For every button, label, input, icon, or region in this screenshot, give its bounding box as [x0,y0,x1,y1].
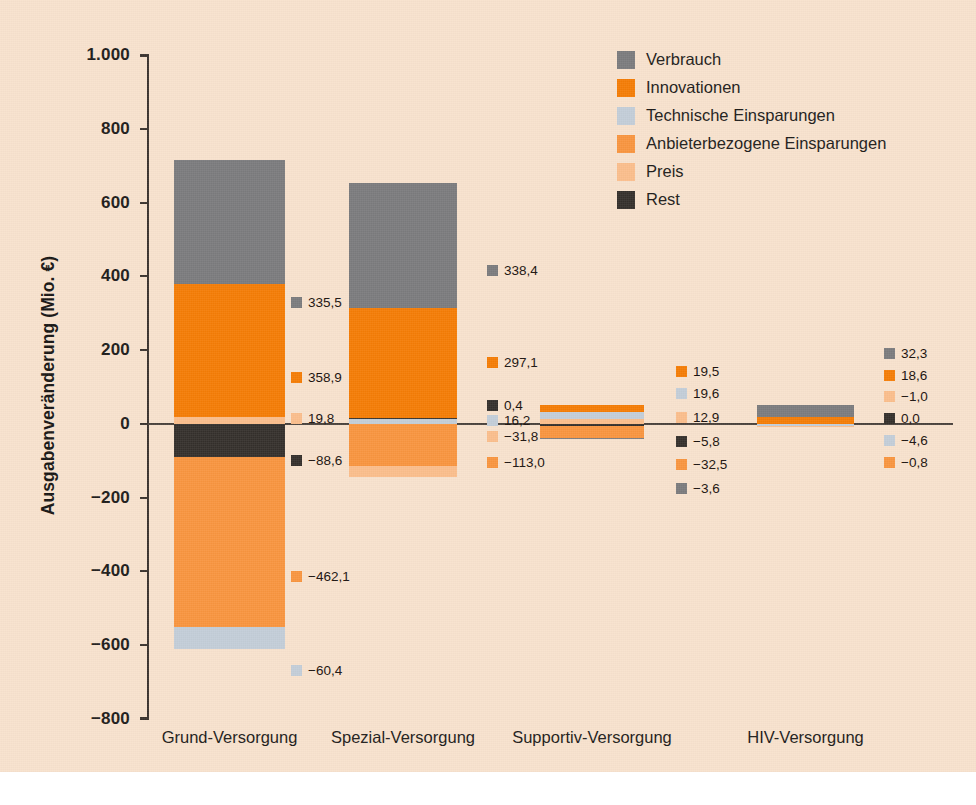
legend-item: Verbrauch [617,50,886,69]
y-tick-label: −800 [34,709,130,729]
value-label-swatch-icon [291,571,302,582]
y-tick-label: 600 [34,193,130,213]
bar-value-label: −1,0 [884,390,928,404]
y-tick-label: −400 [34,561,130,581]
bar-value-label: −5,8 [676,435,720,449]
legend-swatch-icon [617,191,635,209]
value-label-swatch-icon [884,370,895,381]
value-label-text: 0,0 [901,412,920,426]
bar-segment [349,466,457,478]
value-label-text: −4,6 [901,434,928,448]
value-label-text: −31,8 [504,430,538,444]
value-label-text: −5,8 [693,435,720,449]
bar-segment [174,457,285,627]
legend-item: Preis [617,162,886,181]
y-tick-mark [140,275,149,277]
bar-segment [349,308,457,418]
y-tick-mark [140,570,149,572]
value-label-swatch-icon [291,372,302,383]
bar-segment [174,627,285,649]
y-tick-mark [140,128,149,130]
bar-value-label: −0,8 [884,456,928,470]
value-label-swatch-icon [676,436,687,447]
bar-value-label: −462,1 [291,570,350,584]
bar-segment [757,405,854,417]
bar-value-label: 12,9 [676,411,719,425]
legend-item-label: Innovationen [646,78,741,97]
y-tick-label: −200 [34,488,130,508]
y-tick-mark [140,718,149,720]
bar-segment [757,417,854,424]
bar-value-label: 338,4 [487,264,538,278]
bar-value-label: −3,6 [676,482,720,496]
legend-swatch-icon [617,107,635,125]
value-label-swatch-icon [291,665,302,676]
bar-value-label: 358,9 [291,371,342,385]
bar-value-label: 297,1 [487,356,538,370]
legend-item-label: Anbieterbezogene Einsparungen [646,134,886,153]
bar-value-label: 335,5 [291,296,342,310]
page-bottom-strip [0,772,976,805]
value-label-text: 19,5 [693,365,719,379]
value-label-swatch-icon [487,431,498,442]
bar-segment [174,417,285,424]
value-label-swatch-icon [291,297,302,308]
bar-segment [174,424,285,457]
value-label-text: −1,0 [901,390,928,404]
value-label-text: 358,9 [308,371,342,385]
value-label-swatch-icon [487,415,498,426]
legend: VerbrauchInnovationenTechnische Einsparu… [617,50,886,209]
value-label-text: 19,6 [693,387,719,401]
bar-value-label: 16,2 [487,414,530,428]
bar-value-label: −88,6 [291,454,342,468]
y-tick-label: 0 [34,414,130,434]
bar-value-label: 32,3 [884,347,927,361]
value-label-swatch-icon [291,455,302,466]
y-tick-label: 800 [34,119,130,139]
y-axis-title: Ausgabenveränderung (Mio. €) [38,206,59,566]
bar-value-label: 0,0 [884,412,920,426]
value-label-text: −462,1 [308,570,350,584]
y-tick-mark [140,349,149,351]
value-label-swatch-icon [487,265,498,276]
bar-value-label: 19,6 [676,387,719,401]
value-label-swatch-icon [487,357,498,368]
bar-segment [540,426,644,438]
value-label-swatch-icon [676,412,687,423]
value-label-swatch-icon [676,366,687,377]
value-label-swatch-icon [676,459,687,470]
bar-value-label: 0,4 [487,399,523,413]
value-label-swatch-icon [676,483,687,494]
bar-value-label: 19,5 [676,365,719,379]
bar-segment [757,426,854,427]
bar-value-label: −4,6 [884,434,928,448]
legend-swatch-icon [617,79,635,97]
value-label-swatch-icon [884,348,895,359]
legend-item-label: Rest [646,190,680,209]
value-label-swatch-icon [884,435,895,446]
y-tick-mark [140,202,149,204]
bar-value-label: −60,4 [291,664,342,678]
y-tick-mark [140,54,149,56]
value-label-text: −113,0 [504,456,545,470]
value-label-text: 16,2 [504,414,530,428]
bar-segment [174,160,285,284]
value-label-text: 335,5 [308,296,342,310]
legend-swatch-icon [617,163,635,181]
value-label-swatch-icon [487,457,498,468]
value-label-text: −88,6 [308,454,342,468]
value-label-text: −0,8 [901,456,928,470]
value-label-text: −3,6 [693,482,720,496]
bar-value-label: −31,8 [487,430,538,444]
y-tick-label: −600 [34,635,130,655]
y-tick-label: 200 [34,340,130,360]
value-label-swatch-icon [884,413,895,424]
y-tick-mark [140,644,149,646]
value-label-text: −60,4 [308,664,342,678]
bar-value-label: −32,5 [676,458,727,472]
bar-segment [349,183,457,308]
bar-value-label: 19,8 [291,412,334,426]
bar-segment [349,418,457,419]
value-label-text: 32,3 [901,347,927,361]
legend-item: Rest [617,190,886,209]
